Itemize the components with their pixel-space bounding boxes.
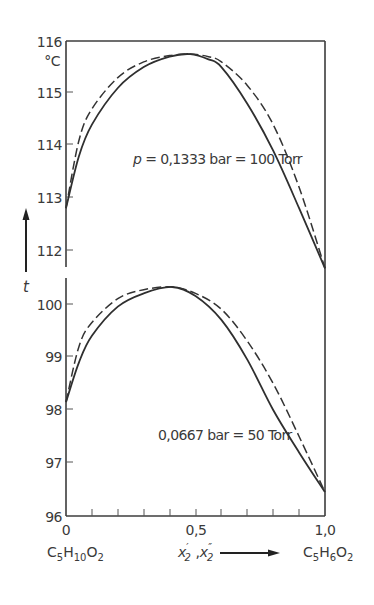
- y-unit-label: °C: [44, 53, 61, 69]
- y-label-115: 115: [37, 85, 62, 101]
- x-tick-labels: 0 0,5 1,0: [62, 522, 336, 538]
- x-ticks: [92, 509, 299, 516]
- y-label-113: 113: [37, 190, 62, 206]
- y-label-98: 98: [45, 402, 62, 418]
- right-compound-label: C5H6O2: [303, 544, 353, 563]
- plot-frame: [66, 41, 325, 516]
- y-label-100: 100: [37, 297, 62, 313]
- x-axis-arrow: [220, 550, 280, 557]
- x-axis-title: x′2 ,x″2: [177, 542, 213, 563]
- x-label-1-0: 1,0: [315, 522, 336, 538]
- lower-liquid-curve: [66, 287, 325, 492]
- lower-vapor-curve: [66, 287, 325, 492]
- lower-panel-annotation: 0,0667 bar = 50 Torr: [158, 427, 292, 443]
- arrow-right-icon: [268, 550, 280, 557]
- y-axis-title: t: [23, 278, 30, 296]
- x-label-0-5: 0,5: [186, 522, 207, 538]
- chart-canvas: 116 °C 115 114 113 112 100 99 98 97 96 t…: [0, 0, 374, 605]
- y-axis-arrow: [23, 208, 30, 272]
- y-ticks: [66, 92, 73, 462]
- x-label-0: 0: [62, 522, 70, 538]
- y-label-96: 96: [45, 509, 62, 525]
- y-label-112: 112: [37, 243, 62, 259]
- arrow-up-icon: [23, 208, 30, 220]
- y-label-114: 114: [37, 137, 63, 153]
- y-label-97: 97: [45, 455, 62, 471]
- y-label-99: 99: [45, 349, 62, 365]
- y-tick-labels: 116 °C 115 114 113 112 100 99 98 97 96: [37, 34, 63, 525]
- lower-panel-series: [66, 287, 325, 492]
- y-label-116: 116: [37, 34, 63, 50]
- left-compound-label: C5H10O2: [47, 544, 104, 563]
